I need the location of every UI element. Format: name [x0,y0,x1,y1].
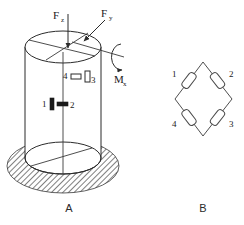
strain-gauge-3-label: 3 [91,75,96,85]
bridge-resistor-2-label: 2 [229,69,234,79]
lateral-force-subscript: y [109,14,113,22]
panel-label-b: B [199,202,206,214]
wheatstone-bridge: 1 2 3 4 [172,62,234,136]
axial-force-label: F [53,9,59,21]
strain-gauge-4-label: 4 [63,71,68,81]
lateral-force-label: F [101,7,107,19]
bridge-resistor-3-label: 3 [229,119,234,129]
bridge-resistor-4 [181,108,198,126]
bridge-resistor-1-label: 1 [172,69,177,79]
panel-label-a: A [65,202,73,214]
bridge-wire-path [175,62,232,136]
torsion-moment-subscript: x [123,80,127,88]
strain-gauge-1-label: 1 [42,99,47,109]
strain-gauge-4 [71,74,81,79]
bridge-resistor-2 [209,71,226,89]
bridge-resistor-3 [209,108,226,126]
bridge-resistor-1 [181,71,198,89]
engineering-figure: F z F y M x 4 3 1 2 1 [0,0,244,225]
torsion-moment-arc-arrow [111,44,122,70]
bridge-resistor-4-label: 4 [172,119,177,129]
strain-gauge-2 [57,102,68,106]
figure-canvas: F z F y M x 4 3 1 2 1 [0,0,244,225]
strain-gauge-1 [50,98,54,110]
strain-gauge-3 [85,71,90,82]
axial-force-subscript: z [61,16,64,24]
strain-gauge-2-label: 2 [70,100,75,110]
